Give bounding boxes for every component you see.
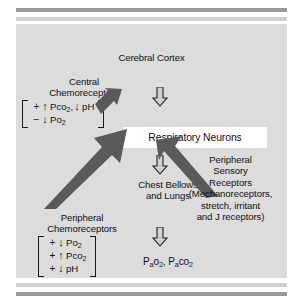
peripheral-sensory-line5: stretch, irritant bbox=[201, 200, 260, 211]
arrow-down-icon-output bbox=[152, 227, 168, 247]
bottom-rule-light bbox=[16, 283, 287, 287]
node-cerebral-cortex: Cerebral Cortex bbox=[16, 52, 287, 63]
pao2-label: Pao2 bbox=[143, 256, 163, 267]
peripheral-chemoreceptor-stimuli-group: + ↓ Po2 + ↑ Pco2 + ↓ pH bbox=[38, 236, 96, 277]
stimulus-term: Po2 bbox=[49, 114, 66, 127]
peripheral-chemoreceptors-line2: Chemoreceptors bbox=[47, 223, 117, 234]
stimulus-row: − ↓ Po2 bbox=[32, 114, 94, 127]
stimulus-term: Po2 bbox=[65, 237, 82, 250]
peripheral-sensory-line1: Peripheral bbox=[209, 154, 252, 165]
stimulus-term: pH bbox=[65, 263, 78, 276]
bracket-right bbox=[90, 236, 96, 277]
stimulus-direction-arrow-icon-2: ↓ bbox=[73, 101, 81, 112]
stimulus-row: + ↓ pH bbox=[48, 263, 86, 276]
peripheral-sensory-line2: Sensory bbox=[213, 165, 248, 176]
stimulus-row: + ↑ Pco2 bbox=[48, 250, 86, 263]
bottom-rule-dark bbox=[16, 292, 287, 296]
node-peripheral-chemoreceptors: Peripheral Chemoreceptors bbox=[20, 212, 144, 235]
stimulus-direction-arrow-icon: ↑ bbox=[57, 250, 65, 261]
peripheral-sensory-line4: (Mechanoreceptors, bbox=[189, 188, 273, 199]
stimulus-direction-arrow-icon: ↓ bbox=[41, 114, 49, 125]
stimulus-direction-arrow-icon: ↑ bbox=[41, 101, 49, 112]
node-peripheral-sensory-receptors: Peripheral Sensory Receptors (Mechanorec… bbox=[174, 154, 287, 222]
stimulus-direction-arrow-icon: ↓ bbox=[57, 263, 65, 274]
node-central-chemoreceptors: Central Chemoreceptors bbox=[18, 76, 150, 99]
stimulus-sign: + bbox=[48, 263, 57, 275]
arrow-down-icon-cortex bbox=[152, 87, 168, 107]
diagram-panel: Cerebral Cortex Central Chemoreceptors +… bbox=[16, 24, 287, 278]
stimulus-term: Pco2 bbox=[65, 250, 86, 263]
peripheral-chemoreceptors-line1: Peripheral bbox=[61, 212, 104, 223]
top-rule-dark bbox=[16, 8, 287, 12]
block-arrow-central-input-icon bbox=[95, 88, 123, 114]
stimulus-row: + ↓ Po2 bbox=[48, 237, 86, 250]
peripheral-sensory-line3: Receptors bbox=[209, 177, 252, 188]
central-chemoreceptor-stimuli-group: + ↑ Pco2, ↓ pH − ↓ Po2 bbox=[22, 100, 104, 128]
central-chemoreceptors-line1: Central bbox=[69, 76, 99, 87]
stimulus-term-2: pH bbox=[81, 101, 94, 113]
block-arrow-peripheral-chemoreceptor-input-icon bbox=[44, 129, 128, 209]
paco2-label: Paco2 bbox=[168, 256, 193, 267]
top-rule-light bbox=[16, 17, 287, 21]
stimulus-sign: + bbox=[48, 250, 57, 262]
stimulus-term: Pco2, bbox=[49, 101, 73, 114]
stimulus-sign: + bbox=[32, 101, 41, 113]
stimulus-direction-arrow-icon: ↓ bbox=[57, 237, 65, 248]
stimulus-sign: + bbox=[48, 237, 57, 249]
peripheral-sensory-line6: and J receptors) bbox=[197, 211, 265, 222]
stimulus-sign: − bbox=[32, 114, 41, 126]
figure-container: Cerebral Cortex Central Chemoreceptors +… bbox=[0, 0, 303, 307]
node-arterial-blood-gases: Pao2, Paco2 bbox=[108, 256, 228, 268]
